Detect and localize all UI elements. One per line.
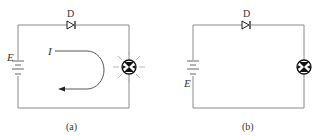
battery-icon [12,61,24,74]
circuit-wires-b [193,25,304,108]
battery-icon [187,61,199,74]
battery-label: E [6,51,14,63]
circuit-panel-a: D E I [6,8,145,133]
circuit-wires-a [18,25,129,108]
diode-icon [67,21,75,29]
panel-caption-a: (a) [66,121,77,133]
panel-caption-b: (b) [242,121,254,133]
current-arrow-icon [55,51,104,92]
battery-label: E [183,77,191,89]
circuit-panel-b: D E (b) [183,8,311,133]
diode-label: D [67,8,74,19]
diode-icon [242,21,250,29]
diode-label: D [243,8,250,19]
current-label: I [47,45,53,57]
circuit-figure: D E I [0,0,321,140]
lamp-unlit-icon [297,60,311,74]
